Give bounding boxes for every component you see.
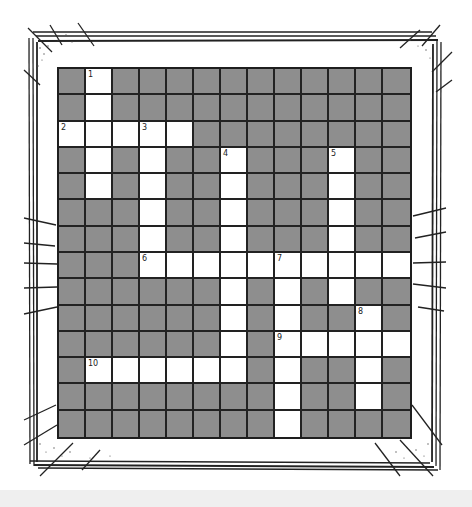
open-cell[interactable]: [329, 253, 356, 279]
blocked-cell: [383, 279, 410, 305]
open-cell[interactable]: [167, 358, 194, 384]
blocked-cell: [356, 148, 383, 174]
blocked-cell: [383, 306, 410, 332]
blocked-cell: [329, 306, 356, 332]
open-cell[interactable]: [248, 253, 275, 279]
blocked-cell: [302, 384, 329, 410]
open-cell[interactable]: [329, 200, 356, 226]
blocked-cell: [167, 95, 194, 121]
open-cell[interactable]: [329, 279, 356, 305]
open-cell[interactable]: [140, 200, 167, 226]
blocked-cell: [302, 95, 329, 121]
open-cell[interactable]: [140, 227, 167, 253]
open-cell[interactable]: 8: [356, 306, 383, 332]
blocked-cell: [140, 411, 167, 437]
open-cell[interactable]: [275, 306, 302, 332]
blocked-cell: [302, 69, 329, 95]
blocked-cell: [113, 174, 140, 200]
blocked-cell: [113, 253, 140, 279]
blocked-cell: [113, 200, 140, 226]
blocked-cell: [194, 279, 221, 305]
blocked-cell: [86, 200, 113, 226]
open-cell[interactable]: 1: [86, 69, 113, 95]
open-cell[interactable]: [356, 358, 383, 384]
clue-number: 7: [277, 254, 282, 263]
blocked-cell: [356, 227, 383, 253]
open-cell[interactable]: 3: [140, 122, 167, 148]
blocked-cell: [302, 358, 329, 384]
open-cell[interactable]: 5: [329, 148, 356, 174]
open-cell[interactable]: 10: [86, 358, 113, 384]
blocked-cell: [59, 279, 86, 305]
open-cell[interactable]: [167, 122, 194, 148]
open-cell[interactable]: [86, 95, 113, 121]
open-cell[interactable]: 7: [275, 253, 302, 279]
blocked-cell: [86, 332, 113, 358]
blocked-cell: [248, 200, 275, 226]
blocked-cell: [194, 69, 221, 95]
open-cell[interactable]: [140, 174, 167, 200]
open-cell[interactable]: [113, 122, 140, 148]
open-cell[interactable]: [221, 358, 248, 384]
open-cell[interactable]: [302, 332, 329, 358]
open-cell[interactable]: [383, 253, 410, 279]
blocked-cell: [383, 122, 410, 148]
open-cell[interactable]: [221, 306, 248, 332]
blocked-cell: [302, 200, 329, 226]
blocked-cell: [59, 411, 86, 437]
open-cell[interactable]: [113, 358, 140, 384]
open-cell[interactable]: [221, 332, 248, 358]
open-cell[interactable]: [221, 174, 248, 200]
blocked-cell: [248, 358, 275, 384]
open-cell[interactable]: [329, 174, 356, 200]
blocked-cell: [59, 306, 86, 332]
open-cell[interactable]: [356, 332, 383, 358]
open-cell[interactable]: [221, 279, 248, 305]
open-cell[interactable]: 2: [59, 122, 86, 148]
blocked-cell: [329, 95, 356, 121]
blocked-cell: [275, 148, 302, 174]
open-cell[interactable]: [275, 384, 302, 410]
open-cell[interactable]: [221, 200, 248, 226]
open-cell[interactable]: [140, 358, 167, 384]
blocked-cell: [302, 411, 329, 437]
open-cell[interactable]: [329, 332, 356, 358]
clue-number: 6: [142, 254, 147, 263]
clue-number: 1: [88, 70, 93, 79]
open-cell[interactable]: [140, 148, 167, 174]
open-cell[interactable]: [275, 279, 302, 305]
open-cell[interactable]: [275, 411, 302, 437]
blocked-cell: [167, 384, 194, 410]
blocked-cell: [275, 227, 302, 253]
blocked-cell: [59, 69, 86, 95]
open-cell[interactable]: [86, 122, 113, 148]
blocked-cell: [194, 95, 221, 121]
open-cell[interactable]: [356, 384, 383, 410]
blocked-cell: [248, 279, 275, 305]
open-cell[interactable]: [86, 174, 113, 200]
open-cell[interactable]: [221, 227, 248, 253]
open-cell[interactable]: [275, 358, 302, 384]
blocked-cell: [194, 306, 221, 332]
open-cell[interactable]: [356, 253, 383, 279]
open-cell[interactable]: [167, 253, 194, 279]
open-cell[interactable]: 9: [275, 332, 302, 358]
open-cell[interactable]: [221, 253, 248, 279]
open-cell[interactable]: [194, 253, 221, 279]
blocked-cell: [86, 253, 113, 279]
open-cell[interactable]: [383, 332, 410, 358]
blocked-cell: [383, 227, 410, 253]
open-cell[interactable]: 4: [221, 148, 248, 174]
blocked-cell: [194, 174, 221, 200]
blocked-cell: [167, 279, 194, 305]
open-cell[interactable]: [194, 358, 221, 384]
blocked-cell: [275, 95, 302, 121]
blocked-cell: [221, 122, 248, 148]
blocked-cell: [140, 95, 167, 121]
open-cell[interactable]: [302, 253, 329, 279]
blocked-cell: [221, 69, 248, 95]
open-cell[interactable]: [86, 148, 113, 174]
blocked-cell: [221, 411, 248, 437]
open-cell[interactable]: 6: [140, 253, 167, 279]
open-cell[interactable]: [329, 227, 356, 253]
